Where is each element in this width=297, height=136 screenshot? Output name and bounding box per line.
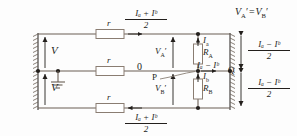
right-lower-drop-fraction: Iₐ − Iᵇ 2 <box>248 78 290 100</box>
right-upper-drop-fraction: Iₐ − Iᵇ 2 <box>248 40 290 62</box>
equality-label-va-vb: VA′ = VB′ <box>235 7 268 20</box>
bottom-outer-current-fraction: Iₐ + Iᵇ 2 <box>125 113 167 135</box>
leader-line-p <box>160 72 195 80</box>
resistor-r-neutral <box>96 67 124 76</box>
resistor-r-top <box>96 30 124 39</box>
voltage-va-prime-label: VA′ <box>155 47 167 59</box>
voltage-vb-prime-label: VB′ <box>155 84 166 96</box>
resistor-r-bottom <box>96 104 124 113</box>
resistor-r-top-label: r <box>107 19 111 28</box>
neutral-branch-current-label: Iₐ − Iᵇ <box>197 61 219 70</box>
load-rb-label: RB <box>203 84 212 96</box>
circuit-diagram-figure: VA′ = VB′ V V r r r 0 P Q VA′ VB′ Ia Ib … <box>0 0 297 136</box>
supply-voltage-upper-label: V <box>51 45 58 56</box>
point-p-label: P <box>152 73 157 82</box>
current-ib-label: Ib <box>203 72 209 84</box>
current-ia-label: Ia <box>203 36 209 48</box>
load-ra-label: RA <box>203 48 213 60</box>
resistor-r-bottom-label: r <box>107 93 111 102</box>
neutral-current-zero-label: 0 <box>137 62 142 72</box>
top-outer-current-fraction: Iₐ + Iᵇ 2 <box>125 9 167 31</box>
node-bottom-tap <box>196 106 200 110</box>
node-supply-neutral <box>36 69 40 73</box>
point-q-label: Q <box>228 66 235 75</box>
resistor-r-neutral-label: r <box>107 56 111 65</box>
supply-voltage-lower-label: V <box>51 82 58 93</box>
node-top-tap <box>196 32 200 36</box>
